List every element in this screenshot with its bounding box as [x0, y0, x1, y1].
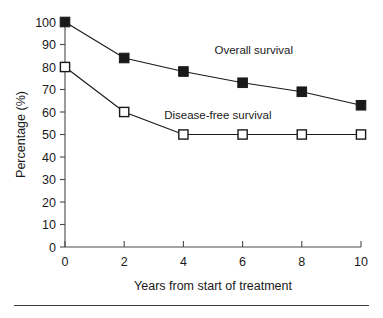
data-point-marker	[60, 17, 70, 27]
data-point-marker	[238, 78, 248, 88]
data-point-marker	[238, 130, 247, 139]
y-tick-label-80: 80	[42, 61, 56, 75]
y-tick-label-50: 50	[42, 128, 56, 142]
data-point-marker	[179, 130, 188, 139]
data-point-marker	[297, 87, 307, 97]
data-point-marker	[60, 62, 69, 71]
y-tick-label-30: 30	[42, 173, 56, 187]
data-point-marker	[356, 130, 365, 139]
x-axis-title: Years from start of treatment	[134, 279, 292, 293]
data-point-marker	[179, 67, 189, 77]
y-tick-label-90: 90	[42, 38, 56, 52]
series-layer	[60, 17, 366, 139]
y-tick-label-70: 70	[42, 83, 56, 97]
x-tick-label-10: 10	[354, 255, 368, 269]
series-line-0	[65, 22, 361, 105]
data-point-marker	[297, 130, 306, 139]
y-tick-label-40: 40	[42, 151, 56, 165]
y-tick-label-10: 10	[42, 218, 56, 232]
data-point-marker	[356, 100, 366, 110]
series-annotations: Overall survivalDisease-free survival	[164, 44, 293, 121]
data-point-marker	[119, 53, 129, 63]
figure-container: 0102030405060708090100 0246810 Overall s…	[0, 0, 383, 318]
y-axis-title: Percentage (%)	[14, 91, 28, 178]
x-tick-label-6: 6	[239, 255, 246, 269]
y-axis-ticks: 0102030405060708090100	[35, 16, 65, 255]
y-tick-label-20: 20	[42, 196, 56, 210]
y-tick-label-0: 0	[49, 241, 56, 255]
data-point-marker	[120, 107, 129, 116]
x-axis-ticks: 0246810	[62, 241, 368, 269]
series-label-1: Disease-free survival	[164, 109, 271, 121]
x-tick-label-2: 2	[121, 255, 128, 269]
y-tick-label-100: 100	[35, 16, 56, 30]
footer-rule	[14, 305, 369, 306]
x-tick-label-8: 8	[298, 255, 305, 269]
y-tick-label-60: 60	[42, 106, 56, 120]
survival-curve-chart: 0102030405060708090100 0246810 Overall s…	[0, 0, 383, 318]
x-tick-label-0: 0	[62, 255, 69, 269]
series-label-0: Overall survival	[214, 44, 293, 56]
x-tick-label-4: 4	[180, 255, 187, 269]
